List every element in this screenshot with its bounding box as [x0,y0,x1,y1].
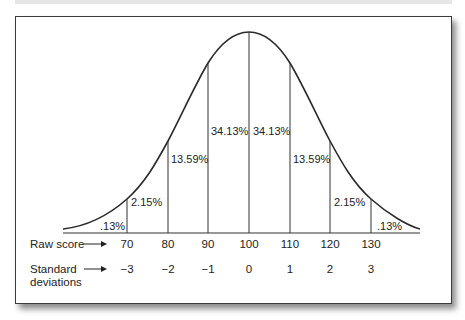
raw-score-tick: 70 [121,238,134,250]
sd-tick: 1 [287,263,293,275]
sd-tick: 2 [327,263,333,275]
sd-arrow [84,266,107,272]
sd-tick: −2 [161,263,174,275]
raw-score-tick: 80 [162,238,175,250]
raw-score-arrow [84,241,107,247]
raw-score-label: Raw score [30,238,84,250]
band-label: 34.13% [211,125,249,137]
sd-tick: 0 [246,263,252,275]
band-label: .13% [377,220,402,232]
raw-score-tick: 100 [239,238,258,250]
band-label: 34.13% [253,125,291,137]
band-label: .13% [100,220,125,232]
band-label: 13.59% [293,153,331,165]
sd-tick: 3 [368,263,374,275]
raw-score-tick: 130 [361,238,380,250]
raw-score-tick: 120 [320,238,339,250]
band-label: 2.15% [131,196,162,208]
sd-tick: −3 [120,263,133,275]
sd-label-line1: Standard [30,263,77,275]
band-label: 2.15% [334,196,365,208]
raw-score-tick: 110 [281,238,299,250]
raw-score-tick: 90 [202,238,215,250]
normal-curve-chart: .13% 2.15% 13.59% 34.13% 34.13% 13.59% 2… [0,0,465,320]
sd-tick: −1 [201,263,214,275]
band-label: 13.59% [171,153,209,165]
sd-label-line2: deviations [30,276,82,288]
